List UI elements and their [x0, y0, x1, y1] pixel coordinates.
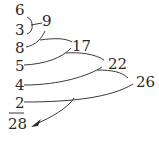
- addend-5: 5: [15, 59, 25, 74]
- partial-sum-9: 9: [42, 14, 52, 29]
- addend-6: 6: [15, 3, 25, 18]
- addend-3: 3: [15, 23, 25, 38]
- addend-2: 2: [15, 96, 25, 111]
- partial-sum-17: 17: [72, 39, 91, 54]
- partial-sum-22: 22: [108, 57, 127, 72]
- arrowhead-icon: [31, 119, 41, 127]
- addend-8: 8: [15, 41, 25, 56]
- addend-4: 4: [15, 78, 25, 93]
- total-28: 28: [8, 117, 27, 132]
- partial-sum-26: 26: [136, 75, 155, 90]
